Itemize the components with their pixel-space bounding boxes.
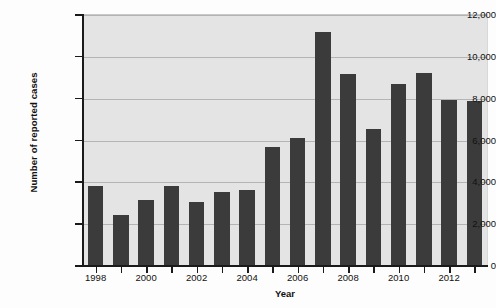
y-axis-tick-label: 6,000 xyxy=(424,134,496,145)
bar xyxy=(189,202,205,266)
bar xyxy=(239,190,255,266)
x-axis-tick-label: 2002 xyxy=(186,272,207,283)
y-axis-title: Number of reported cases xyxy=(22,0,44,265)
bar xyxy=(340,74,356,266)
x-axis-tick-label: 2004 xyxy=(237,272,258,283)
x-axis-tick-label: 2012 xyxy=(439,272,460,283)
x-axis-tick xyxy=(424,266,426,273)
x-axis-tick-label: 2000 xyxy=(136,272,157,283)
bar xyxy=(315,32,331,266)
y-axis-tick xyxy=(75,14,83,16)
x-axis-tick xyxy=(121,266,123,273)
y-axis-tick-label: 12,000 xyxy=(424,9,496,20)
x-axis-tick xyxy=(222,266,224,273)
bar xyxy=(164,186,180,266)
y-axis-tick-label: 2,000 xyxy=(424,218,496,229)
x-axis-tick-label: 2010 xyxy=(388,272,409,283)
bar xyxy=(265,147,281,266)
chart-figure: Number of reported cases 02,0004,0006,00… xyxy=(0,0,496,308)
y-axis-tick xyxy=(75,223,83,225)
x-axis-tick xyxy=(373,266,375,273)
y-axis-tick xyxy=(75,56,83,58)
y-axis-tick-label: 10,000 xyxy=(424,50,496,61)
y-axis-tick xyxy=(75,181,83,183)
y-axis-tick-label: 8,000 xyxy=(424,92,496,103)
x-axis-tick xyxy=(272,266,274,273)
y-axis-tick xyxy=(75,140,83,142)
bar xyxy=(113,215,129,266)
y-axis-tick-label: 4,000 xyxy=(424,176,496,187)
x-axis-title: Year xyxy=(80,288,490,299)
bar xyxy=(366,129,382,266)
x-axis-tick-label: 2008 xyxy=(338,272,359,283)
x-axis-tick xyxy=(171,266,173,273)
bar xyxy=(88,186,104,266)
x-axis-tick xyxy=(323,266,325,273)
y-axis-tick xyxy=(75,265,83,267)
x-axis-tick-label: 2006 xyxy=(287,272,308,283)
y-axis-tick-label: 0 xyxy=(424,260,496,271)
x-axis-tick xyxy=(474,266,476,273)
bar xyxy=(290,138,306,266)
y-axis-tick xyxy=(75,98,83,100)
bar xyxy=(214,192,230,266)
bar xyxy=(138,200,154,266)
x-axis-tick-label: 1998 xyxy=(85,272,106,283)
bar xyxy=(391,84,407,266)
